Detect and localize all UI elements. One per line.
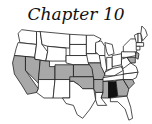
state-ut — [38, 60, 55, 79]
state-nm — [53, 80, 70, 98]
state-or — [14, 43, 36, 58]
state-mt — [40, 32, 70, 49]
state-wy — [46, 46, 66, 61]
state-me — [141, 26, 147, 41]
state-ct — [136, 46, 140, 50]
us-map — [6, 26, 152, 122]
chapter-title: Chapter 10 — [0, 4, 152, 24]
state-az — [37, 80, 55, 98]
state-nd — [70, 34, 87, 44]
state-in — [107, 57, 113, 70]
state-ne — [66, 56, 90, 65]
state-oh — [112, 54, 121, 67]
state-ma — [136, 43, 143, 47]
state-mi — [105, 43, 114, 56]
state-wa — [18, 30, 36, 45]
state-fl — [110, 96, 132, 120]
state-sd — [70, 44, 87, 55]
state-wi — [96, 41, 105, 56]
state-nj — [135, 52, 139, 59]
